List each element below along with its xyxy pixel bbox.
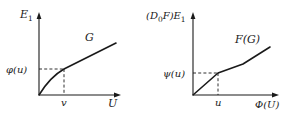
diagram-svg: E1 G φ(u) v U (D0F)E1 F(G) ψ(u) u Φ(U)	[0, 0, 288, 122]
right-y-mark-label: ψ(u)	[163, 68, 185, 79]
left-x-axis-label: U	[108, 97, 118, 110]
left-curve-label: G	[85, 31, 94, 44]
left-x-mark-label: v	[61, 97, 67, 108]
right-curve-FG	[193, 47, 270, 95]
left-y-axis-arrow-icon	[37, 12, 42, 19]
left-panel: E1 G φ(u) v U	[6, 8, 121, 110]
right-y-axis-label: (D0F)E1	[146, 10, 186, 24]
right-y-axis-arrow-icon	[191, 12, 196, 19]
right-x-axis-arrow-icon	[272, 93, 279, 98]
left-y-axis-label: E1	[19, 8, 33, 23]
right-panel: (D0F)E1 F(G) ψ(u) u Φ(U)	[146, 10, 280, 110]
right-x-mark-label: u	[215, 97, 221, 108]
right-curve-label: F(G)	[234, 33, 260, 46]
diagram-canvas: E1 G φ(u) v U (D0F)E1 F(G) ψ(u) u Φ(U)	[0, 0, 288, 122]
left-y-mark-label: φ(u)	[6, 64, 27, 75]
right-x-axis-label: Φ(U)	[255, 99, 280, 110]
